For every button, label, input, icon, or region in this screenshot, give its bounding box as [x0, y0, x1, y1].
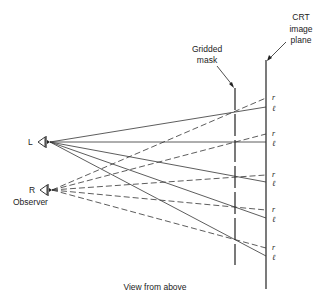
r-label-4: r	[272, 205, 276, 214]
crt-arrowhead-icon	[267, 55, 272, 61]
l-label-1: ℓ	[272, 104, 276, 113]
right-eye-label: R	[29, 185, 35, 195]
caption: View from above	[123, 282, 186, 292]
r-label-2: r	[272, 129, 276, 138]
stereo-display-diagram: CRT image plane Gridded mask L R Observe…	[0, 0, 324, 299]
left-eye-rays	[50, 107, 266, 256]
r-label-3: r	[272, 170, 276, 179]
crt-label-line1: CRT	[292, 12, 309, 22]
mask-arrowhead-icon	[229, 82, 234, 88]
crt-label-line3: plane	[291, 35, 312, 45]
image-point-labels: r ℓ r ℓ r ℓ r ℓ r ℓ	[272, 93, 276, 262]
l-label-5: ℓ	[272, 253, 276, 262]
mask-label-line2: mask	[197, 55, 218, 65]
observer-label: Observer	[13, 197, 48, 207]
crt-label-line2: image	[289, 24, 312, 34]
mask-label-line1: Gridded	[192, 44, 223, 54]
right-eye-rays	[52, 98, 266, 248]
left-eye-icon	[38, 136, 50, 148]
l-label-3: ℓ	[272, 179, 276, 188]
r-label-1: r	[272, 93, 276, 102]
r-label-5: r	[272, 243, 276, 252]
right-eye-icon	[40, 184, 52, 196]
l-label-4: ℓ	[272, 215, 276, 224]
left-eye-label: L	[28, 137, 33, 147]
l-label-2: ℓ	[272, 139, 276, 148]
